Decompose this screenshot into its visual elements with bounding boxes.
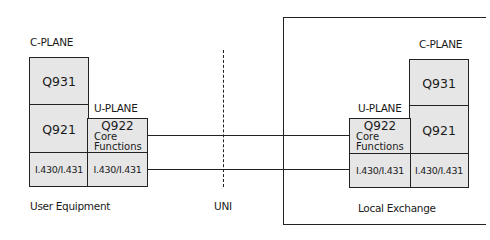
le-functions-text: Functions <box>356 142 404 152</box>
le-c-plane-label: C-PLANE <box>419 38 462 50</box>
ue-q921-text: Q921 <box>42 122 76 137</box>
uni-label: UNI <box>214 200 232 212</box>
ue-cplane-physical-text: I.430/I.431 <box>35 164 83 175</box>
uni-boundary-line <box>223 50 224 187</box>
ue-caption: User Equipment <box>30 200 110 212</box>
ue-uplane-physical-text: I.430/I.431 <box>94 164 142 175</box>
le-caption: Local Exchange <box>358 202 436 214</box>
ue-c-plane-label: C-PLANE <box>30 36 73 48</box>
ue-u-plane-label: U-PLANE <box>94 102 137 114</box>
le-cplane-physical-box: I.430/I.431 <box>409 153 469 188</box>
le-q921-box: Q921 <box>409 105 469 155</box>
ue-q931-box: Q931 <box>29 57 89 106</box>
le-q931-text: Q931 <box>422 76 456 91</box>
exchange-left-border <box>283 17 284 224</box>
exchange-top-border <box>283 17 486 18</box>
le-q931-box: Q931 <box>409 59 469 107</box>
physical-link-line <box>148 169 349 170</box>
u-plane-link-line <box>148 135 349 136</box>
le-u-plane-label: U-PLANE <box>358 102 401 114</box>
ue-q922-core-box: Q922 Core Functions <box>87 118 148 154</box>
ue-functions-text: Functions <box>94 142 142 152</box>
ue-uplane-physical-box: I.430/I.431 <box>87 152 148 187</box>
le-uplane-physical-text: I.430/I.431 <box>356 165 404 176</box>
ue-cplane-physical-box: I.430/I.431 <box>29 152 89 187</box>
exchange-bottom-border <box>283 224 486 225</box>
le-q922-core-box: Q922 Core Functions <box>349 118 411 155</box>
le-q921-text: Q921 <box>422 123 456 138</box>
le-uplane-physical-box: I.430/I.431 <box>349 153 411 188</box>
ue-q921-box: Q921 <box>29 104 89 154</box>
le-cplane-physical-text: I.430/I.431 <box>415 165 463 176</box>
ue-q931-text: Q931 <box>42 74 76 89</box>
